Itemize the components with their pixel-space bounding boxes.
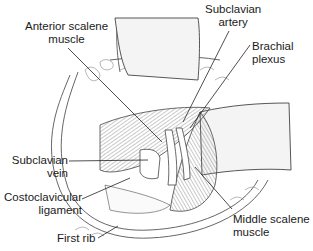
label-line: ligament <box>0 204 82 217</box>
label-brachial-plexus: Brachial plexus <box>252 40 294 66</box>
first-rib <box>105 185 170 213</box>
subclavian-vein <box>140 149 160 178</box>
label-anterior-scalene-muscle: Anterior scalene muscle <box>25 20 108 46</box>
label-line: Costoclavicular <box>0 191 82 204</box>
label-line: Middle scalene <box>233 213 310 226</box>
label-line: Subclavian <box>205 3 261 16</box>
label-line: plexus <box>252 53 294 66</box>
label-line: artery <box>205 16 261 29</box>
label-middle-scalene-muscle: Middle scalene muscle <box>233 213 310 239</box>
label-first-rib: First rib <box>57 232 95 245</box>
label-subclavian-artery: Subclavian artery <box>205 3 261 29</box>
label-costoclavicular-ligament: Costoclavicular ligament <box>0 191 82 217</box>
label-subclavian-vein: Subclavian vein <box>10 154 68 180</box>
label-line: muscle <box>25 33 108 46</box>
label-line: vein <box>10 167 68 180</box>
label-line: muscle <box>233 226 310 239</box>
label-line: First rib <box>57 232 95 245</box>
label-line: Subclavian <box>10 154 68 167</box>
retractor-top <box>115 18 200 80</box>
label-line: Anterior scalene <box>25 20 108 33</box>
label-line: Brachial <box>252 40 294 53</box>
